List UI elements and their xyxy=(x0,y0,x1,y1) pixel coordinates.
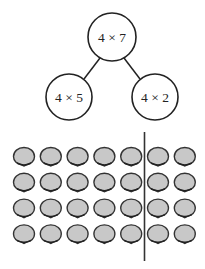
left-child-node: 4 × 5 xyxy=(46,74,92,120)
number-bond-diagram: 4 × 7 4 × 5 4 × 2 xyxy=(0,0,205,269)
shell-icon xyxy=(67,148,88,167)
shell-icon xyxy=(121,148,142,167)
shell-icon xyxy=(40,199,61,218)
shell-icon xyxy=(40,225,61,244)
shell-icon xyxy=(94,225,115,244)
shell-icon xyxy=(14,199,35,218)
shell-icon xyxy=(121,225,142,244)
connector-left xyxy=(84,58,100,79)
left-child-label: 4 × 5 xyxy=(55,90,83,105)
shell-icon xyxy=(14,148,35,167)
shell-icon xyxy=(94,199,115,218)
shell-icon xyxy=(174,199,195,218)
shell-icon xyxy=(148,199,169,218)
shell-icon xyxy=(94,148,115,167)
shell-icon xyxy=(67,173,88,192)
shell-array xyxy=(14,148,196,244)
shell-icon xyxy=(40,148,61,167)
shell-icon xyxy=(174,173,195,192)
shell-icon xyxy=(121,199,142,218)
shell-icon xyxy=(148,225,169,244)
shell-icon xyxy=(94,173,115,192)
shell-icon xyxy=(40,173,61,192)
right-child-node: 4 × 2 xyxy=(132,74,178,120)
shell-icon xyxy=(174,148,195,167)
shell-icon xyxy=(14,225,35,244)
shell-icon xyxy=(148,148,169,167)
shell-icon xyxy=(148,173,169,192)
right-child-label: 4 × 2 xyxy=(141,90,169,105)
shell-icon xyxy=(14,173,35,192)
root-node: 4 × 7 xyxy=(88,13,136,61)
root-node-label: 4 × 7 xyxy=(98,30,126,45)
shell-icon xyxy=(174,225,195,244)
shell-icon xyxy=(67,199,88,218)
shell-icon xyxy=(67,225,88,244)
connector-right xyxy=(124,58,140,79)
shell-icon xyxy=(121,173,142,192)
